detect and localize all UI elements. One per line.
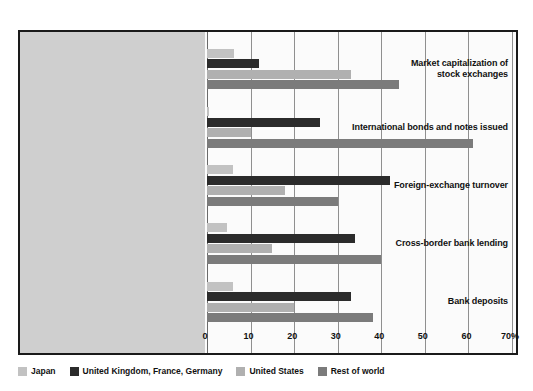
grouped-bar-chart: Market capitalization of stock exchanges…	[0, 0, 533, 391]
bar-row-0	[207, 80, 399, 89]
bar-ukfrde-0	[207, 59, 259, 68]
xtick-label-60: 60	[461, 331, 471, 341]
bar-japan-4	[207, 282, 233, 291]
bar-ukfrde-4	[207, 292, 351, 301]
legend-swatch-united-states	[236, 367, 245, 376]
bar-japan-2	[207, 165, 233, 174]
bar-us-4	[207, 303, 294, 312]
category-label-4: Bank deposits	[339, 296, 508, 307]
bar-japan-3	[207, 223, 227, 232]
xtick-label-20: 20	[287, 331, 297, 341]
xtick-label-10: 10	[244, 331, 254, 341]
xtick-label-70: 70%	[501, 331, 519, 341]
legend-label-united-states: United States	[249, 366, 303, 376]
bar-row-2	[207, 197, 338, 206]
legend-swatch-japan	[18, 367, 27, 376]
bar-row-4	[207, 313, 373, 322]
bar-us-0	[207, 70, 351, 79]
bar-us-3	[207, 244, 272, 253]
bar-us-1	[207, 128, 251, 137]
bar-japan-1	[207, 107, 209, 116]
xtick-label-30: 30	[331, 331, 341, 341]
legend-label-uk-france-germany: United Kingdom, France, Germany	[83, 366, 223, 376]
legend-label-rest-of-world: Rest of world	[331, 366, 385, 376]
bar-row-1	[207, 139, 473, 148]
category-label-1: International bonds and notes issued	[339, 122, 508, 133]
legend-item-united-states: United States	[236, 366, 303, 376]
bar-row-3	[207, 255, 381, 264]
legend-swatch-uk-france-germany	[70, 367, 79, 376]
bar-ukfrde-3	[207, 234, 355, 243]
category-label-0: Market capitalization of stock exchanges	[339, 58, 508, 80]
bar-japan-0	[207, 49, 234, 58]
chart-legend: Japan United Kingdom, France, Germany Un…	[18, 366, 385, 376]
xtick-label-50: 50	[418, 331, 428, 341]
legend-item-uk-france-germany: United Kingdom, France, Germany	[70, 366, 223, 376]
xtick-label-0: 0	[202, 331, 207, 341]
category-label-2: Foreign-exchange turnover	[339, 180, 508, 191]
legend-swatch-rest-of-world	[318, 367, 327, 376]
xtick-label-40: 40	[374, 331, 384, 341]
chart-frame: Market capitalization of stock exchanges…	[18, 30, 518, 355]
bar-ukfrde-1	[207, 118, 320, 127]
legend-item-japan: Japan	[18, 366, 56, 376]
category-label-band	[20, 32, 205, 353]
gridline-70	[512, 32, 513, 353]
legend-label-japan: Japan	[31, 366, 56, 376]
bar-us-2	[207, 186, 285, 195]
legend-item-rest-of-world: Rest of world	[318, 366, 385, 376]
category-label-3: Cross-border bank lending	[339, 238, 508, 249]
